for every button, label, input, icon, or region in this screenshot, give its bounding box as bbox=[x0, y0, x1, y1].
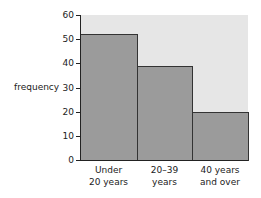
y-axis-label: frequency bbox=[14, 82, 59, 92]
bar bbox=[80, 34, 138, 161]
x-tick-label: Under20 years bbox=[80, 164, 137, 188]
x-axis bbox=[80, 160, 248, 161]
x-tick-label-line: 40 years bbox=[192, 164, 248, 176]
y-tick-label: 50 bbox=[44, 34, 74, 44]
y-tick-label: 40 bbox=[44, 58, 74, 68]
x-tick-label-line: Under bbox=[80, 164, 137, 176]
bar bbox=[137, 66, 193, 161]
y-tick bbox=[76, 15, 81, 16]
bar bbox=[192, 112, 249, 161]
x-tick-label-line: years bbox=[137, 176, 192, 188]
y-tick-label: 0 bbox=[44, 155, 74, 165]
x-tick-label-line: 20–39 bbox=[137, 164, 192, 176]
y-tick bbox=[76, 112, 81, 113]
y-tick bbox=[76, 136, 81, 137]
x-tick-label-line: 20 years bbox=[80, 176, 137, 188]
x-tick-label: 40 yearsand over bbox=[192, 164, 248, 188]
y-tick-label: 10 bbox=[44, 131, 74, 141]
x-tick-label: 20–39years bbox=[137, 164, 192, 188]
y-tick bbox=[76, 88, 81, 89]
y-tick bbox=[76, 39, 81, 40]
y-tick-label: 60 bbox=[44, 10, 74, 20]
y-tick bbox=[76, 63, 81, 64]
y-tick bbox=[76, 160, 81, 161]
x-tick-label-line: and over bbox=[192, 176, 248, 188]
y-tick-label: 20 bbox=[44, 107, 74, 117]
